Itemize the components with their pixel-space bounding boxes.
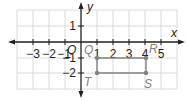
point-label-r: R [149,42,158,56]
down-arrow-icon [79,91,84,98]
up-arrow-icon [79,2,84,9]
x-axis [8,39,185,45]
point-label-s: S [144,77,152,91]
x-axis-label: x [170,26,178,40]
y-tick-label: −1 [62,51,76,65]
y-tick-label: −2 [62,66,76,80]
x-tick-label: 3 [126,47,133,61]
rectangle-qrst [95,56,148,75]
point-r [144,56,148,60]
point-label-t: T [84,75,93,89]
right-arrow-icon [178,40,185,45]
coordinate-plane: x y O −3 −2 −1 1 2 3 4 5 1 −1 −2 Q R S T [0,0,188,100]
x-tick-label: −2 [42,47,56,61]
x-tick-label: −3 [26,47,40,61]
point-s [144,71,148,75]
y-axis-label: y [86,0,94,14]
y-tick-label: 1 [69,19,76,33]
point-label-q: Q [84,43,93,57]
point-t [95,71,99,75]
x-tick-label: 2 [110,47,117,61]
point-q [95,56,99,60]
x-tick-label: 5 [158,47,165,61]
left-arrow-icon [8,40,15,45]
